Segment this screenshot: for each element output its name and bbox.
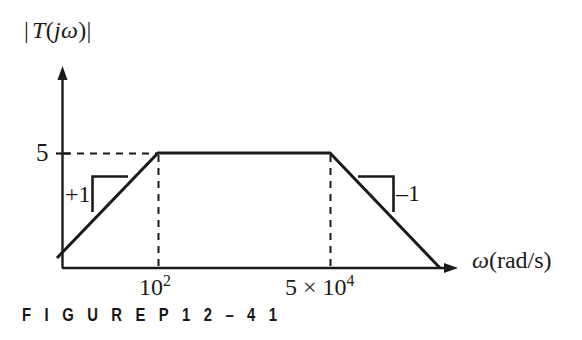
slope-triangle-positive bbox=[93, 177, 129, 213]
y-axis-title-omega: ω bbox=[61, 17, 78, 43]
x-axis-title-omega: ω bbox=[472, 247, 489, 273]
y-axis-title-bar-left: | bbox=[24, 17, 29, 43]
slope-label-negative: –1 bbox=[396, 181, 420, 205]
figure-container: |T(jω)| 5 102 5 × 104 ω(rad/s) +1 –1 F I… bbox=[0, 0, 582, 340]
x-axis bbox=[62, 263, 458, 273]
x-tick-label-5e4-coefficient: 5 × bbox=[285, 274, 323, 300]
figure-caption: F I G U R E P 1 2 – 4 1 bbox=[22, 305, 282, 324]
y-axis-title-T: T bbox=[32, 17, 46, 43]
x-tick-label-5e4-base: 10 bbox=[323, 274, 347, 300]
y-tick-label-5: 5 bbox=[36, 140, 49, 165]
x-tick-label-1e2: 102 bbox=[139, 275, 171, 299]
magnitude-response-curve bbox=[57, 153, 440, 268]
x-tick-label-5e4: 5 × 104 bbox=[285, 275, 354, 299]
x-axis-title: ω(rad/s) bbox=[472, 248, 552, 272]
x-axis-title-unit: (rad/s) bbox=[489, 247, 552, 273]
y-axis-title-bar-right: | bbox=[87, 17, 92, 43]
slope-triangle-negative bbox=[358, 177, 394, 213]
x-tick-label-5e4-exponent: 4 bbox=[347, 272, 355, 289]
x-axis-arrowhead bbox=[444, 263, 458, 273]
x-tick-label-1e2-exponent: 2 bbox=[163, 272, 171, 289]
y-axis-title-paren-close: ) bbox=[78, 17, 86, 43]
y-axis-title-j: j bbox=[54, 17, 61, 43]
y-axis-title-paren-open: ( bbox=[46, 17, 54, 43]
slope-label-positive: +1 bbox=[65, 182, 91, 206]
x-tick-label-1e2-base: 10 bbox=[139, 274, 163, 300]
y-axis-arrowhead bbox=[58, 66, 68, 80]
y-axis bbox=[58, 66, 68, 268]
y-axis-title: |T(jω)| bbox=[24, 18, 92, 42]
